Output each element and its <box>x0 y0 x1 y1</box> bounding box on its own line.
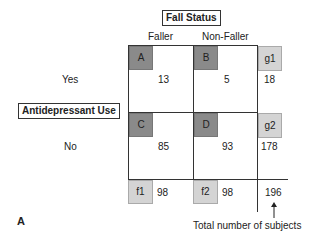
col-total-f2-label: f2 <box>193 180 218 204</box>
column-header-faller: Faller <box>148 31 173 43</box>
cell-b-label: B <box>194 46 218 70</box>
col-total-f1-value: 98 <box>157 187 168 199</box>
col-total-f1-label: f1 <box>128 180 153 204</box>
column-header-non-faller: Non-Faller <box>202 31 249 43</box>
row-total-g1-label: g1 <box>258 46 282 71</box>
row-total-g1-value: 18 <box>264 74 275 86</box>
fall-status-label: Fall Status <box>162 10 221 26</box>
cell-a-label: A <box>129 46 153 70</box>
row-header-no: No <box>64 141 77 153</box>
col-total-f2-value: 98 <box>222 187 233 199</box>
cell-a-value: 13 <box>158 74 169 86</box>
cell-c-value: 85 <box>158 141 169 153</box>
cell-d-value: 93 <box>222 141 233 153</box>
panel-label: A <box>17 215 25 227</box>
antidepressant-use-label: Antidepressant Use <box>18 103 120 119</box>
row-total-g2-label: g2 <box>258 113 282 138</box>
row-total-g2-value: 178 <box>261 141 278 153</box>
cell-d-label: D <box>194 113 218 137</box>
row-header-yes: Yes <box>62 74 78 86</box>
grand-total-value: 196 <box>265 187 282 199</box>
arrow-up-icon <box>270 202 278 218</box>
cell-b-value: 5 <box>224 74 230 86</box>
grand-total-caption: Total number of subjects <box>193 220 301 232</box>
cell-c-label: C <box>129 113 153 137</box>
